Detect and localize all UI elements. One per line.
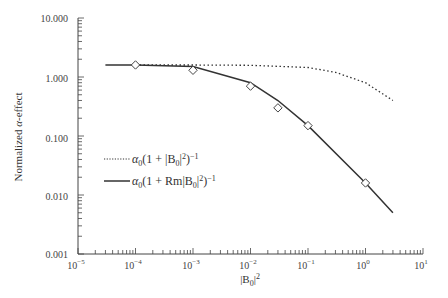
data-markers: [131, 61, 369, 187]
x-tick-label: 10−2: [239, 258, 257, 271]
legend-item-solid: α0(1 + Rm|B0|2)−1: [104, 174, 216, 190]
chart: 10.0001.0000.1000.0100.001 10−510−410−31…: [0, 0, 448, 298]
x-tick-label: 100: [356, 258, 370, 271]
x-title-prefix: |B: [240, 273, 250, 285]
x-tick-label: 101: [414, 258, 428, 271]
legend-label-solid: α0(1 + Rm|B0|2)−1: [132, 174, 216, 190]
y-tick-label: 0.100: [46, 133, 69, 144]
y-title-pre: Normalized: [12, 127, 24, 182]
y-tick-label: 0.010: [46, 191, 69, 202]
y-minor-ticks: [78, 18, 84, 254]
diamond-marker: [131, 61, 139, 69]
diamond-marker: [246, 82, 254, 90]
x-tick-label: 10−4: [124, 258, 142, 271]
axes: 10.0001.0000.1000.0100.001 10−510−410−31…: [41, 13, 429, 271]
x-minor-ticks: [78, 248, 423, 254]
x-tick-label: 10−5: [67, 258, 85, 271]
x-tick-label: 10−3: [182, 258, 200, 271]
x-title-sup: 2: [256, 272, 260, 281]
y-tick-label: 1.000: [46, 73, 69, 84]
x-axis-title: |B0|2: [240, 272, 260, 288]
y-tick-label: 10.000: [41, 13, 69, 24]
diamond-marker: [274, 104, 282, 112]
legend-label-dotted: α0(1 + |B0|2)−1: [132, 152, 198, 168]
legend: α0(1 + |B0|2)−1 α0(1 + Rm|B0|2)−1: [104, 152, 216, 190]
y-tick-labels: 10.0001.0000.1000.0100.001: [41, 13, 69, 260]
x-tick-labels: 10−510−410−310−210−1100101: [67, 258, 428, 271]
y-title-post: -effect: [12, 93, 24, 122]
plot-area: [105, 61, 393, 213]
x-tick-label: 10−1: [297, 258, 315, 271]
y-tick-label: 0.001: [46, 249, 69, 260]
series-dotted-line: [136, 65, 393, 101]
legend-item-dotted: α0(1 + |B0|2)−1: [104, 152, 198, 168]
y-axis-title: Normalized α-effect: [12, 93, 24, 182]
